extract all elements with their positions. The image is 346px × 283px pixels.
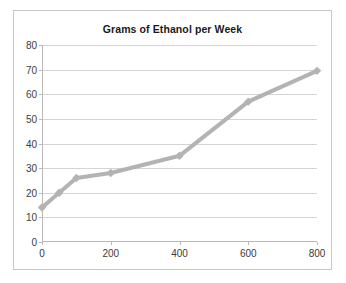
y-axis-tick-label: 40 [26, 138, 37, 149]
plot-area: 01020304050607080 0200400600800 [42, 45, 317, 242]
x-axis-tick-mark [111, 242, 112, 245]
y-axis-tick-label: 10 [26, 212, 37, 223]
y-axis-tick-label: 30 [26, 163, 37, 174]
y-axis-tick-label: 60 [26, 89, 37, 100]
y-axis-tick-label: 20 [26, 187, 37, 198]
data-point-marker [107, 169, 115, 177]
x-axis-tick-mark [248, 242, 249, 245]
x-axis-tick-mark [317, 242, 318, 245]
y-axis-tick-label: 80 [26, 40, 37, 51]
x-axis-tick-label: 0 [39, 248, 45, 259]
x-axis-tick-label: 800 [309, 248, 326, 259]
series-line [42, 71, 317, 208]
x-axis-tick-label: 200 [102, 248, 119, 259]
x-axis-tick-label: 400 [171, 248, 188, 259]
data-series-svg [42, 45, 317, 242]
chart-title: Grams of Ethanol per Week [14, 23, 331, 35]
y-axis-tick-label: 70 [26, 64, 37, 75]
y-axis-tick-label: 50 [26, 113, 37, 124]
x-axis-tick-mark [42, 242, 43, 245]
chart-figure: Grams of Ethanol per Week 01020304050607… [13, 10, 332, 270]
y-axis-tick-label: 0 [31, 237, 37, 248]
x-axis-tick-mark [180, 242, 181, 245]
x-axis-tick-label: 600 [240, 248, 257, 259]
